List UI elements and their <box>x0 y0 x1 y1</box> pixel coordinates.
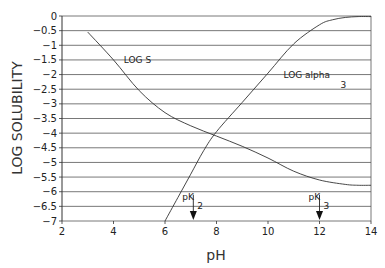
series-label: LOG S <box>124 55 152 65</box>
arrow-down-icon <box>316 211 323 220</box>
y-tick-label: −5.5 <box>33 172 57 183</box>
annotations: LOG SLOG alpha3pK2pK3 <box>124 55 346 220</box>
x-tick-label: 10 <box>262 226 275 237</box>
y-tick-label: −2.5 <box>33 84 57 95</box>
x-tick-label: 14 <box>365 226 378 237</box>
y-tick-label: −4.5 <box>33 142 57 153</box>
y-tick-label: −6.5 <box>33 201 57 212</box>
annotation-subscript: 3 <box>324 201 330 211</box>
annotation-subscript: 2 <box>197 201 203 211</box>
y-tick-label: −0.5 <box>33 25 57 36</box>
series-label: LOG alpha <box>283 70 330 80</box>
y-tick-label: −3 <box>42 98 57 109</box>
y-axis-label: LOG SOLUBILITY <box>9 61 25 175</box>
x-tick-label: 4 <box>110 226 116 237</box>
y-tick-label: −6 <box>42 186 57 197</box>
x-axis-label: pH <box>206 247 225 263</box>
y-tick-label: −2 <box>42 69 57 80</box>
gridlines <box>62 16 371 221</box>
y-tick-label: 0 <box>51 11 57 22</box>
x-tick-label: 2 <box>59 226 65 237</box>
annotation-label: pK <box>309 192 322 202</box>
series-label-subscript: 3 <box>340 80 346 90</box>
annotation-label: pK <box>182 192 195 202</box>
y-tick-label: −4 <box>42 128 57 139</box>
y-tick-label: −1.5 <box>33 54 57 65</box>
x-tick-label: 12 <box>313 226 326 237</box>
solubility-chart: 0−0.5−1−1.5−2−2.5−3−3.5−4−4.5−5−5.5−6−6.… <box>0 0 385 268</box>
x-tick-label: 8 <box>213 226 219 237</box>
y-tick-label: −7 <box>42 216 57 227</box>
y-tick-label: −5 <box>42 157 57 168</box>
arrow-down-icon <box>190 211 197 220</box>
y-tick-label: −1 <box>42 40 57 51</box>
y-tick-label: −3.5 <box>33 113 57 124</box>
x-tick-label: 6 <box>162 226 168 237</box>
